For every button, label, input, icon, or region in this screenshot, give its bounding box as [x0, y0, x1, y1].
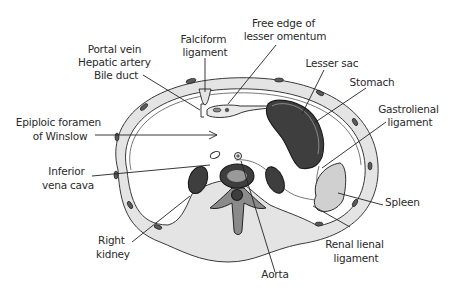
hepatic-artery	[225, 108, 229, 112]
label-right-kidney: Right kidney	[96, 234, 130, 260]
label-portal-triad: Portal vein Hepatic artery Bile duct	[78, 43, 154, 81]
label-epiploic-foramen: Epiploic foramen of Winslow	[16, 116, 104, 142]
portal-vein	[213, 108, 221, 112]
label-lesser-sac: Lesser sac	[306, 57, 359, 69]
aorta-lumen	[236, 154, 240, 158]
label-free-edge-lesser-omentum: Free edge of lesser omentum	[244, 17, 326, 42]
abdomen-cross-section-diagram: Falciform ligament Free edge of lesser o…	[0, 0, 459, 293]
label-inferior-vena-cava: Inferior vena cava	[42, 165, 94, 191]
label-spleen: Spleen	[385, 196, 420, 208]
label-aorta: Aorta	[261, 268, 288, 280]
label-falciform-ligament: Falciform ligament	[181, 33, 230, 58]
label-renal-lienal-ligament: Renal lienal ligament	[325, 238, 387, 264]
label-gastrolienal-ligament: Gastrolienal ligament	[378, 103, 442, 128]
label-stomach: Stomach	[350, 76, 395, 88]
